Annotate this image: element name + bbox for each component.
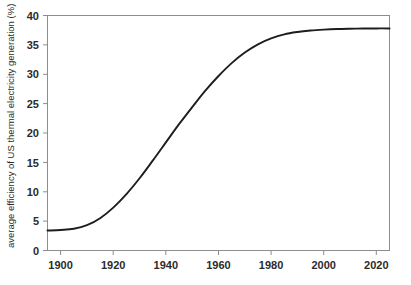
y-tick-marks xyxy=(43,16,48,251)
y-axis-title: average efficiency of US thermal electri… xyxy=(5,4,16,248)
y-tick-label: 20 xyxy=(27,127,39,139)
y-tick-labels: 0 5 10 15 20 25 30 35 40 xyxy=(27,10,39,257)
y-tick-label: 15 xyxy=(27,157,39,169)
plot-frame xyxy=(48,16,390,251)
y-tick-label: 25 xyxy=(27,98,39,110)
x-tick-label: 1920 xyxy=(101,259,125,271)
y-tick-label: 40 xyxy=(27,10,39,22)
y-tick-label: 5 xyxy=(33,215,39,227)
y-tick-label: 35 xyxy=(27,39,39,51)
y-tick-label: 0 xyxy=(33,245,39,257)
x-tick-label: 1980 xyxy=(259,259,283,271)
x-tick-marks xyxy=(61,251,377,256)
chart-figure: 0 5 10 15 20 25 30 35 40 1900 1920 1940 … xyxy=(0,0,411,285)
x-tick-labels: 1900 1920 1940 1960 1980 2000 2020 xyxy=(48,259,388,271)
data-series-line xyxy=(48,28,390,230)
efficiency-line-chart: 0 5 10 15 20 25 30 35 40 1900 1920 1940 … xyxy=(0,0,411,285)
x-tick-label: 1940 xyxy=(154,259,178,271)
x-tick-label: 2000 xyxy=(311,259,335,271)
x-tick-label: 1960 xyxy=(206,259,230,271)
x-tick-label: 2020 xyxy=(364,259,388,271)
x-tick-label: 1900 xyxy=(48,259,72,271)
y-tick-label: 10 xyxy=(27,186,39,198)
y-tick-label: 30 xyxy=(27,68,39,80)
